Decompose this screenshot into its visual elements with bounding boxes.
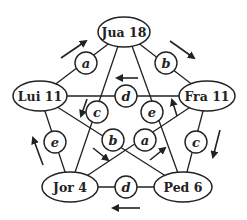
edge-label-c: c bbox=[185, 131, 207, 153]
svg-text:d: d bbox=[121, 180, 130, 195]
edge-label-a: a bbox=[134, 129, 156, 151]
arrow-icon bbox=[150, 148, 165, 160]
svg-text:a: a bbox=[82, 56, 90, 71]
edge-label-a: a bbox=[75, 52, 97, 74]
svg-text:e: e bbox=[51, 135, 59, 150]
edge-label-b: b bbox=[155, 52, 177, 74]
svg-text:c: c bbox=[93, 105, 101, 120]
edge-label-c: c bbox=[86, 101, 108, 123]
node-lui: Lui 11 bbox=[13, 81, 67, 111]
svg-text:a: a bbox=[141, 133, 149, 148]
node-jua: Jua 18 bbox=[98, 17, 150, 47]
arrow-icon bbox=[93, 148, 108, 160]
edge-label-d: d bbox=[115, 85, 137, 107]
svg-text:Lui 11: Lui 11 bbox=[18, 89, 62, 104]
svg-text:Jua 18: Jua 18 bbox=[101, 25, 147, 40]
arrow-icon bbox=[172, 100, 177, 116]
svg-text:b: b bbox=[161, 56, 170, 71]
svg-text:Jor 4: Jor 4 bbox=[52, 180, 87, 195]
svg-text:b: b bbox=[108, 133, 117, 148]
edge-label-e: e bbox=[141, 101, 163, 123]
arrow-icon bbox=[33, 138, 43, 165]
svg-text:e: e bbox=[148, 105, 156, 120]
arrow-icon bbox=[213, 130, 220, 157]
edge-label-e: e bbox=[44, 131, 66, 153]
edge-label-b: b bbox=[102, 129, 124, 151]
svg-text:Fra 11: Fra 11 bbox=[184, 89, 229, 104]
node-fra: Fra 11 bbox=[179, 81, 235, 111]
svg-text:Ped 6: Ped 6 bbox=[164, 180, 203, 195]
nodes: Jua 18 Lui 11 Fra 11 Jor 4 Ped 6 bbox=[13, 17, 235, 202]
svg-text:c: c bbox=[192, 135, 200, 150]
svg-text:d: d bbox=[121, 89, 130, 104]
node-jor: Jor 4 bbox=[42, 172, 98, 202]
graph-diagram: a b d c e b a e bbox=[0, 0, 247, 220]
node-ped: Ped 6 bbox=[154, 172, 212, 202]
edge-label-d: d bbox=[115, 176, 137, 198]
